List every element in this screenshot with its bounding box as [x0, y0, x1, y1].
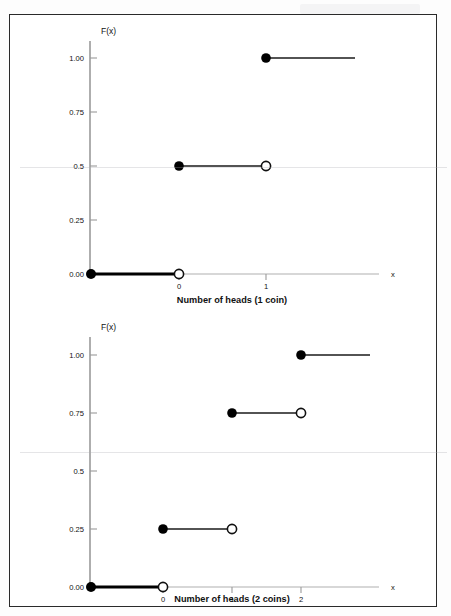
chart1-ytick-label-0.75: 0.75: [69, 108, 84, 117]
chart2-ytick-label-0.5: 0.5: [73, 467, 84, 476]
chart1-ytick-label-0.25: 0.25: [69, 216, 84, 225]
chart1-x-axis-symbol: x: [391, 270, 395, 279]
chart-cdf-one-coin: F(x) 1.00 0.75 0.5 0.25 0.00 0 1 x Numbe…: [10, 15, 436, 311]
chart2-marker-closed-2: [296, 350, 306, 360]
chart2-marker-closed-1: [227, 408, 237, 418]
chart2-y-axis-label: F(x): [101, 322, 116, 332]
chart2-ytick-label-0.25: 0.25: [69, 525, 84, 534]
chart2-marker-open-1: [227, 524, 236, 533]
chart1-marker-closed-origin: [86, 269, 96, 279]
chart1-y-axis-label: F(x): [101, 26, 116, 36]
chart1-xtick-label-1: 1: [264, 282, 268, 291]
chart1-x-axis-title: Number of heads (1 coin): [177, 295, 287, 305]
chart1-ytick-label-0.00: 0.00: [69, 270, 84, 279]
chart1-marker-closed-1: [261, 53, 271, 63]
chart2-ytick-label-1.00: 1.00: [69, 351, 84, 360]
chart2-x-axis-title: Number of heads (2 coins): [174, 594, 289, 604]
chart1-marker-open-1: [261, 161, 270, 170]
chart1-xtick-label-0: 0: [177, 282, 181, 291]
chart2-marker-open-2: [296, 408, 305, 417]
chart2-xtick-label-0: 0: [161, 595, 165, 604]
figure-frame: F(x) 1.00 0.75 0.5 0.25 0.00 0 1 x Numbe…: [9, 14, 437, 607]
chart1-marker-closed-0: [174, 161, 184, 171]
chart1-ytick-label-0.5: 0.5: [73, 162, 84, 171]
chart1-ytick-label-1.00: 1.00: [69, 54, 84, 63]
chart2-marker-open-0: [158, 582, 167, 591]
scan-artifact-top: [300, 4, 420, 14]
chart2-x-axis-symbol: x: [391, 583, 395, 592]
chart2-title-layer: Number of heads (2 coins): [10, 311, 436, 312]
chart2-ytick-label-0.00: 0.00: [69, 583, 84, 592]
chart2-marker-closed-origin: [86, 582, 96, 592]
chart2-xtick-label-2: 2: [299, 595, 303, 604]
chart2-marker-closed-0: [158, 524, 168, 534]
page-background: F(x) 1.00 0.75 0.5 0.25 0.00 0 1 x Numbe…: [0, 0, 451, 616]
chart-cdf-two-coins: F(x) 1.00 0.75 0.5 0.25 0.00 0 1 2 x: [10, 311, 436, 607]
chart1-marker-open-0: [174, 269, 183, 278]
chart2-ytick-label-0.75: 0.75: [69, 409, 84, 418]
